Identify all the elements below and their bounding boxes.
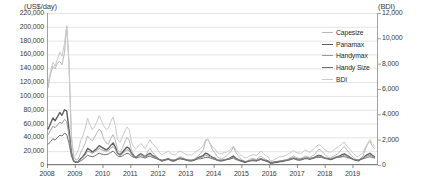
left-tick-label: 180,000 bbox=[0, 37, 44, 44]
right-tick-label: 0 bbox=[382, 161, 424, 168]
legend-item-handy-size: Handy Size bbox=[322, 62, 388, 74]
legend-item-handymax: Handymax bbox=[322, 50, 388, 62]
legend-item-panamax: Panamax bbox=[322, 39, 388, 51]
legend-label: Handy Size bbox=[336, 64, 370, 71]
right-tick-label: 12,000 bbox=[382, 9, 424, 16]
chart-legend: CapesizePanamaxHandymaxHandy SizeBDI bbox=[322, 27, 388, 85]
right-tick-label: 10,000 bbox=[382, 34, 424, 41]
left-tick-label: 40,000 bbox=[0, 133, 44, 140]
legend-label: Capesize bbox=[336, 29, 364, 36]
right-tick-label: 8,000 bbox=[382, 60, 424, 67]
legend-swatch-icon bbox=[322, 67, 333, 68]
left-tick-label: 80,000 bbox=[0, 106, 44, 113]
legend-label: Panamax bbox=[336, 41, 364, 48]
legend-swatch-icon bbox=[322, 32, 333, 33]
left-tick-label: 200,000 bbox=[0, 23, 44, 30]
legend-item-bdi: BDI bbox=[322, 73, 388, 85]
left-tick-label: 120,000 bbox=[0, 78, 44, 85]
left-tick-label: 100,000 bbox=[0, 92, 44, 99]
left-tick-label: 140,000 bbox=[0, 64, 44, 71]
right-tick-label: 2,000 bbox=[382, 136, 424, 143]
legend-item-capesize: Capesize bbox=[322, 27, 388, 39]
legend-swatch-icon bbox=[322, 55, 333, 56]
left-tick-label: 220,000 bbox=[0, 9, 44, 16]
x-tick-label: 2019 bbox=[332, 170, 372, 177]
left-tick-label: 60,000 bbox=[0, 120, 44, 127]
legend-swatch-icon bbox=[322, 79, 333, 80]
legend-label: BDI bbox=[336, 76, 347, 83]
left-tick-label: 20,000 bbox=[0, 147, 44, 154]
right-tick-label: 6,000 bbox=[382, 85, 424, 92]
legend-label: Handymax bbox=[336, 52, 368, 59]
left-tick-label: 160,000 bbox=[0, 50, 44, 57]
right-tick-label: 4,000 bbox=[382, 110, 424, 117]
shipping-rates-chart: (US$/day) (BDI) 220,000200,000180,000160… bbox=[0, 0, 424, 189]
legend-swatch-icon bbox=[322, 44, 333, 45]
left-tick-label: 0 bbox=[0, 161, 44, 168]
